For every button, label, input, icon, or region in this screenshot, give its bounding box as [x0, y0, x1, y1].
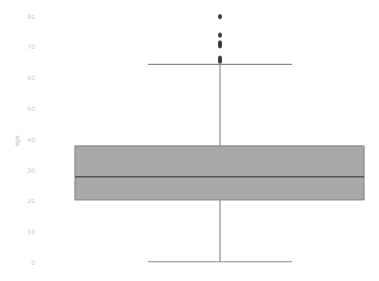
y-tick-label: 60 — [27, 74, 35, 81]
outlier-point — [218, 40, 222, 45]
y-axis-ticks: 01020304050607080 — [27, 13, 35, 266]
y-tick-label: 30 — [27, 167, 35, 174]
y-tick-label: 50 — [27, 105, 35, 112]
y-axis-label: age — [13, 135, 21, 146]
outlier-point — [218, 56, 222, 61]
y-tick-label: 70 — [27, 43, 35, 50]
y-tick-label: 0 — [31, 259, 35, 266]
iqr-box — [75, 146, 364, 200]
y-tick-label: 20 — [27, 197, 35, 204]
y-tick-label: 40 — [27, 136, 35, 143]
y-tick-label: 10 — [27, 228, 35, 235]
outlier-point — [218, 32, 222, 37]
box-plot: 01020304050607080 age — [0, 0, 379, 281]
y-tick-label: 80 — [27, 13, 35, 20]
outlier-point — [218, 14, 222, 19]
plot-area — [75, 14, 364, 262]
